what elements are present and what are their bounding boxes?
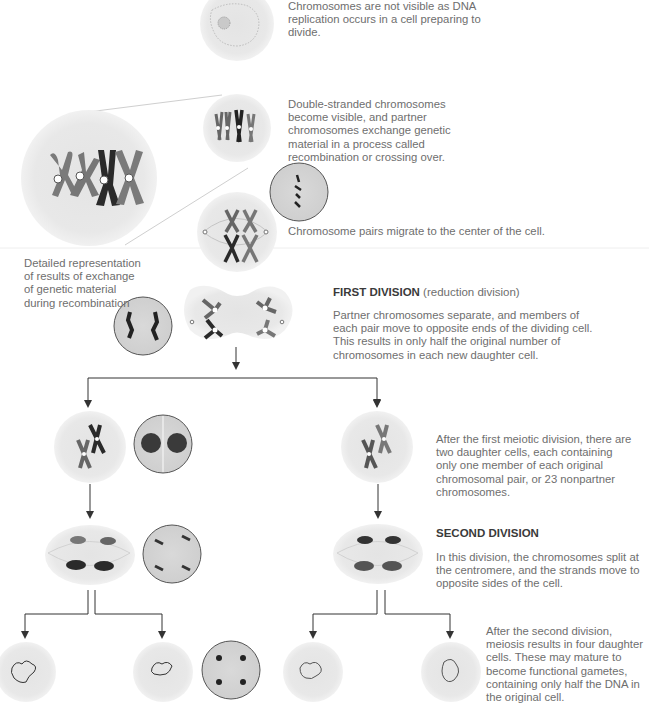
first-division-heading: FIRST DIVISION (reduction division) xyxy=(333,286,633,299)
gamete-cell-2 xyxy=(133,642,193,702)
second-division-heading: SECOND DIVISION xyxy=(436,527,636,540)
anaphase-one-cell xyxy=(184,286,293,339)
telophase-one-photo xyxy=(134,415,192,473)
after-first-division-description: After the first meiotic division, there … xyxy=(436,433,636,499)
interphase-cell xyxy=(200,0,274,61)
telophase-two-photo xyxy=(202,641,260,699)
metaphase-cell xyxy=(197,192,277,272)
second-division-description: In this division, the chromosomes split … xyxy=(436,551,646,591)
prophase-description: Double-stranded chromosomes become visib… xyxy=(288,98,478,164)
zoom-line-top xyxy=(80,95,222,113)
anaphase-two-cell-left xyxy=(45,525,135,585)
anaphase-two-cell-right xyxy=(333,524,423,584)
gamete-cell-1 xyxy=(0,642,56,702)
gamete-cell-3 xyxy=(283,642,343,702)
metaphase-photo xyxy=(270,163,328,221)
detail-caption: Detailed representation of results of ex… xyxy=(24,257,144,310)
first-division-description: Partner chromosomes separate, and member… xyxy=(333,309,593,362)
first-division-subtitle: (reduction division) xyxy=(423,286,520,298)
second-division-arrows xyxy=(90,484,378,512)
after-second-division-description: After the second division, meiosis resul… xyxy=(486,625,646,703)
metaphase-description: Chromosome pairs migrate to the center o… xyxy=(288,225,648,238)
anaphase-two-photo xyxy=(143,525,201,583)
daughter-cell-right xyxy=(341,411,413,483)
interphase-description: Chromosomes are not visible as DNA repli… xyxy=(288,0,488,40)
final-split-arrows xyxy=(25,590,450,633)
gamete-cell-4 xyxy=(421,642,481,702)
first-division-title: FIRST DIVISION xyxy=(333,286,420,298)
recombination-detail-cell xyxy=(21,110,157,246)
prophase-cell xyxy=(203,94,271,162)
daughter-cell-left xyxy=(54,411,126,483)
